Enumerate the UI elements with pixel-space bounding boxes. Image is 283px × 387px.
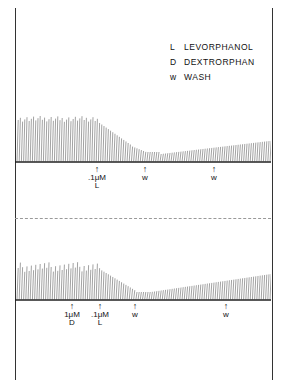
legend-item: wWASH — [170, 70, 255, 85]
marker-dose: w — [142, 173, 148, 182]
marker-dose: w — [132, 310, 138, 319]
treatment-marker: ↑w — [131, 165, 159, 182]
marker-dose: w — [211, 173, 217, 182]
legend-item: DDEXTRORPHAN — [170, 55, 255, 70]
treatment-marker: ↑.1μML — [83, 165, 111, 190]
legend-label: DEXTRORPHAN — [184, 55, 255, 70]
legend: LLEVORPHANOL DDEXTRORPHAN wWASH — [170, 40, 255, 85]
marker-drug: L — [98, 318, 102, 327]
marker-drug: D — [69, 318, 75, 327]
marker-drug: L — [95, 181, 99, 190]
panel-divider — [15, 218, 271, 219]
marker-dose: w — [223, 310, 229, 319]
treatment-marker: ↑.1μML — [86, 302, 114, 327]
treatment-marker: ↑w — [121, 302, 149, 319]
legend-label: WASH — [184, 70, 211, 85]
legend-key: L — [170, 40, 184, 55]
treatment-marker: ↑w — [212, 302, 240, 319]
legend-key: w — [170, 70, 184, 85]
trace-top — [15, 100, 271, 200]
legend-key: D — [170, 55, 184, 70]
treatment-marker: ↑1μMD — [58, 302, 86, 327]
treatment-marker: ↑w — [200, 165, 228, 182]
legend-item: LLEVORPHANOL — [170, 40, 255, 55]
legend-label: LEVORPHANOL — [184, 40, 253, 55]
